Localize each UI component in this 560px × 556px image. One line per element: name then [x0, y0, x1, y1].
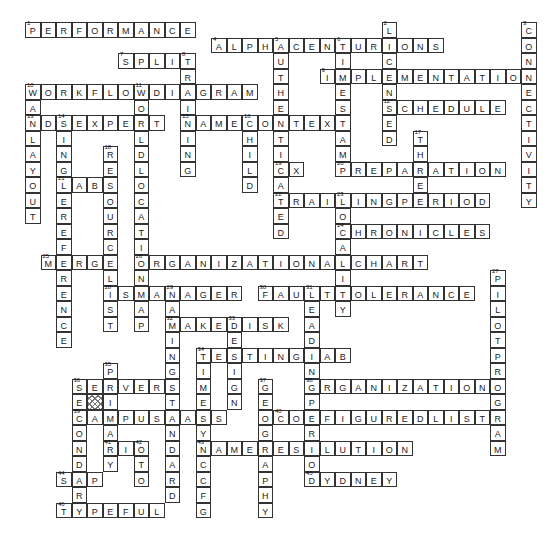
crossword-cell[interactable]: A [304, 193, 320, 209]
crossword-cell[interactable]: O [490, 317, 506, 333]
crossword-cell[interactable]: Y [521, 193, 537, 209]
crossword-cell[interactable]: L [242, 162, 258, 178]
crossword-cell[interactable]: T [103, 317, 119, 333]
crossword-cell[interactable]: E [382, 286, 398, 302]
crossword-cell[interactable]: 12S [382, 100, 398, 116]
crossword-cell[interactable]: L [366, 286, 382, 302]
crossword-cell[interactable]: I [258, 348, 274, 364]
crossword-cell[interactable]: L [444, 224, 460, 240]
crossword-cell[interactable]: N [165, 348, 181, 364]
crossword-cell[interactable]: L [25, 131, 41, 147]
crossword-cell[interactable]: U [103, 208, 119, 224]
crossword-cell[interactable]: R [72, 255, 88, 271]
crossword-cell[interactable]: O [459, 379, 475, 395]
crossword-cell[interactable]: E [304, 410, 320, 426]
crossword-cell[interactable]: P [134, 317, 150, 333]
crossword-cell[interactable]: O [134, 472, 150, 488]
crossword-cell[interactable]: R [72, 487, 88, 503]
crossword-cell[interactable]: R [56, 22, 72, 38]
crossword-cell[interactable]: R [103, 224, 119, 240]
crossword-cell[interactable]: E [521, 84, 537, 100]
crossword-cell[interactable]: 27P [490, 270, 506, 286]
crossword-cell[interactable]: A [134, 22, 150, 38]
crossword-cell[interactable]: Y [335, 301, 351, 317]
crossword-cell[interactable]: D [444, 100, 460, 116]
crossword-cell[interactable]: I [521, 131, 537, 147]
crossword-cell[interactable]: L [475, 100, 491, 116]
crossword-cell[interactable]: G [87, 255, 103, 271]
crossword-cell[interactable]: L [335, 255, 351, 271]
crossword-cell[interactable]: P [397, 193, 413, 209]
crossword-cell[interactable]: Z [227, 255, 243, 271]
crossword-cell[interactable]: N [366, 193, 382, 209]
crossword-cell[interactable]: C [196, 472, 212, 488]
crossword-cell[interactable]: E [428, 100, 444, 116]
crossword-cell[interactable]: O [475, 162, 491, 178]
crossword-cell[interactable]: E [103, 162, 119, 178]
crossword-cell[interactable]: R [56, 208, 72, 224]
crossword-cell[interactable]: T [134, 224, 150, 240]
crossword-cell[interactable]: E [180, 22, 196, 38]
crossword-cell[interactable]: 43N [196, 441, 212, 457]
crossword-cell[interactable]: R [258, 441, 274, 457]
crossword-cell[interactable]: E [366, 472, 382, 488]
crossword-cell[interactable]: P [490, 348, 506, 364]
crossword-cell[interactable]: D [413, 410, 429, 426]
crossword-cell[interactable]: X [320, 115, 336, 131]
crossword-cell[interactable]: A [134, 208, 150, 224]
crossword-cell[interactable]: Y [382, 472, 398, 488]
crossword-cell[interactable]: I [320, 193, 336, 209]
crossword-cell[interactable]: E [227, 332, 243, 348]
crossword-cell[interactable]: F [87, 84, 103, 100]
crossword-cell[interactable]: I [242, 146, 258, 162]
crossword-cell[interactable]: N [521, 53, 537, 69]
crossword-cell[interactable]: 41R [103, 441, 119, 457]
crossword-cell[interactable]: U [335, 441, 351, 457]
crossword-cell[interactable]: N [475, 379, 491, 395]
crossword-cell[interactable]: 40C [273, 410, 289, 426]
crossword-cell[interactable]: F [72, 22, 88, 38]
crossword-cell[interactable]: D [134, 146, 150, 162]
crossword-cell[interactable]: 39C [72, 410, 88, 426]
crossword-cell[interactable]: I [227, 363, 243, 379]
crossword-cell[interactable]: T [273, 131, 289, 147]
crossword-cell[interactable]: E [413, 193, 429, 209]
crossword-cell[interactable]: 21L [56, 177, 72, 193]
crossword-cell[interactable]: S [428, 38, 444, 54]
crossword-cell[interactable]: O [382, 441, 398, 457]
crossword-cell[interactable]: P [103, 115, 119, 131]
crossword-cell[interactable]: G [196, 503, 212, 519]
crossword-cell[interactable]: T [25, 208, 41, 224]
crossword-cell[interactable]: C [289, 38, 305, 54]
crossword-cell[interactable]: I [335, 410, 351, 426]
crossword-cell[interactable]: U [273, 53, 289, 69]
crossword-cell[interactable]: B [87, 177, 103, 193]
crossword-cell[interactable]: R [366, 224, 382, 240]
crossword-cell[interactable]: A [180, 286, 196, 302]
crossword-cell[interactable]: L [227, 38, 243, 54]
crossword-cell[interactable]: N [56, 301, 72, 317]
crossword-cell[interactable]: C [134, 193, 150, 209]
crossword-cell[interactable]: A [227, 84, 243, 100]
crossword-cell[interactable]: E [56, 255, 72, 271]
crossword-cell[interactable]: E [56, 193, 72, 209]
crossword-cell[interactable]: P [351, 69, 367, 85]
crossword-cell[interactable]: V [521, 146, 537, 162]
crossword-cell[interactable]: L [134, 131, 150, 147]
crossword-cell[interactable]: I [444, 410, 460, 426]
crossword-cell[interactable]: I [335, 53, 351, 69]
crossword-cell[interactable]: C [56, 317, 72, 333]
crossword-cell[interactable]: T [258, 255, 274, 271]
crossword-cell[interactable]: O [490, 379, 506, 395]
crossword-cell[interactable]: 11W [134, 84, 150, 100]
crossword-cell[interactable]: Y [72, 503, 88, 519]
crossword-cell[interactable]: Y [25, 162, 41, 178]
crossword-cell[interactable]: O [25, 177, 41, 193]
crossword-cell[interactable]: I [490, 286, 506, 302]
crossword-cell[interactable]: U [459, 100, 475, 116]
crossword-cell[interactable]: I [304, 441, 320, 457]
crossword-cell[interactable]: A [180, 410, 196, 426]
crossword-cell[interactable]: N [428, 286, 444, 302]
crossword-cell[interactable]: L [428, 410, 444, 426]
crossword-cell[interactable]: D [242, 177, 258, 193]
